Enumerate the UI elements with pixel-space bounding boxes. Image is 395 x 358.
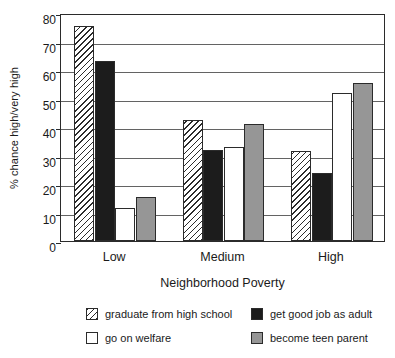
bars-container [61,15,384,241]
plot-area [60,14,385,242]
y-tick-label: 20 [20,185,56,197]
legend-swatch-icon [251,308,263,320]
y-tick-label: 40 [20,128,56,140]
x-tick-label: Low [60,250,168,264]
bar [291,151,311,241]
x-axis-tick-labels: LowMediumHigh [60,250,385,266]
bar [244,124,264,241]
bar [353,83,373,241]
x-axis-title: Neighborhood Poverty [60,276,385,290]
x-tick-label: Medium [169,250,277,264]
legend-swatch-icon [86,332,98,344]
chart-legend: graduate from high schoolget good job as… [86,308,386,354]
legend-swatch-icon [86,308,98,320]
y-tick-label: 10 [20,214,56,226]
legend-item[interactable]: get good job as adult [251,308,372,320]
legend-swatch-icon [251,332,263,344]
y-axis-title: % chance high/very high [8,28,20,228]
x-tick-label: High [277,250,385,264]
legend-item[interactable]: graduate from high school [86,308,232,320]
bar [332,93,352,241]
legend-label: get good job as adult [270,308,372,320]
bar [203,150,223,241]
y-axis-tick-labels: 01020304050607080 [20,8,56,248]
legend-item[interactable]: become teen parent [251,332,368,344]
y-tick-label: 50 [20,100,56,112]
y-tick-label: 80 [20,14,56,26]
y-tick-label: 70 [20,43,56,55]
legend-label: graduate from high school [105,308,232,320]
bar [224,147,244,241]
bar [95,61,115,241]
bar [312,173,332,241]
y-tick-label: 0 [20,242,56,254]
y-axis-tick [56,243,61,244]
legend-item[interactable]: go on welfare [86,332,171,344]
y-tick-label: 30 [20,157,56,169]
bar [74,26,94,241]
bar-chart-figure: % chance high/very high 0102030405060708… [0,0,395,358]
bar [115,208,135,241]
legend-label: go on welfare [105,332,171,344]
legend-label: become teen parent [270,332,368,344]
y-tick-label: 60 [20,71,56,83]
bar [136,197,156,241]
bar [183,120,203,241]
